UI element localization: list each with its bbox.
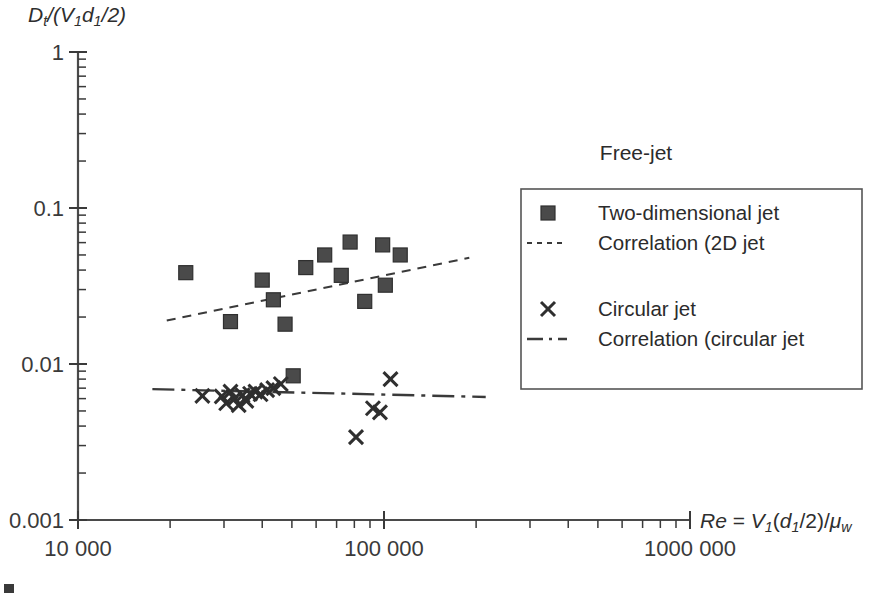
data-point-square	[334, 268, 348, 282]
legend-label: Two-dimensional jet	[598, 201, 779, 224]
y-axis-tick-labels: 10.10.010.001	[9, 40, 64, 533]
series-two-dimensional-jet-markers	[179, 235, 407, 383]
caption-bullet-icon	[4, 584, 14, 593]
free-jet-note: Free-jet	[600, 141, 673, 164]
legend-label: Correlation (circular jet	[598, 327, 805, 350]
y-tick-label: 0.001	[9, 508, 64, 533]
x-tick-label: 1000 000	[644, 536, 736, 561]
data-point-square	[343, 235, 357, 249]
data-point-square	[278, 317, 292, 331]
caption-strip	[4, 584, 14, 593]
legend-label: Correlation (2D jet	[598, 231, 765, 254]
x-tick-label: 100 000	[344, 536, 424, 561]
legend: Two-dimensional jetCorrelation (2D jetCi…	[527, 201, 805, 350]
x-axis-title: Re = V1(d1/2)/μw	[700, 509, 853, 535]
y-tick-label: 1	[52, 40, 64, 65]
y-tick-label: 0.01	[21, 352, 64, 377]
data-point-square	[358, 294, 372, 308]
data-point-square	[318, 248, 332, 262]
data-point-square	[299, 261, 313, 275]
figure-container: 10.10.010.001 10 000100 0001000 000 Dt/(…	[0, 0, 877, 593]
data-point-square	[393, 248, 407, 262]
y-axis-title: Dt/(V1d1/2)	[28, 3, 126, 29]
correlation-line-dashed	[167, 258, 470, 321]
data-point-square	[223, 315, 237, 329]
x-tick-label: 10 000	[44, 536, 111, 561]
correlation-lines	[152, 258, 485, 397]
x-axis-ticks	[78, 511, 690, 529]
legend-marker-cross	[541, 302, 555, 316]
legend-label: Circular jet	[598, 297, 696, 320]
data-point-square	[266, 293, 280, 307]
data-point-square	[179, 266, 193, 280]
data-point-square	[378, 278, 392, 292]
data-point-square	[376, 238, 390, 252]
data-point-cross	[383, 372, 397, 386]
data-point-cross	[349, 430, 363, 444]
y-tick-label: 0.1	[33, 196, 64, 221]
scatter-plot: 10.10.010.001 10 000100 0001000 000 Dt/(…	[0, 0, 877, 593]
data-point-square	[255, 273, 269, 287]
legend-marker-square	[541, 206, 555, 220]
data-point-square	[286, 369, 300, 383]
x-axis-tick-labels: 10 000100 0001000 000	[44, 536, 736, 561]
